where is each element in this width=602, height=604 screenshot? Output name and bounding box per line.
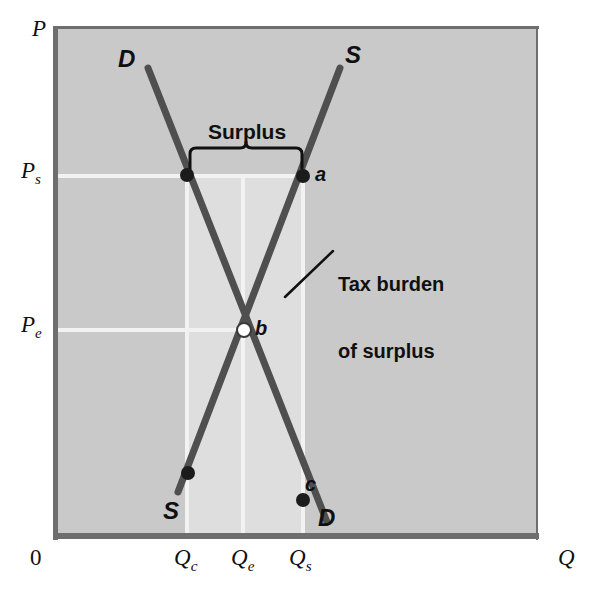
point-label-a: a: [315, 163, 326, 185]
demand-curve-label-bottom: D: [318, 505, 335, 532]
point-label-c: c: [305, 473, 316, 495]
tax-burden-annotation: Tax burden of surplus: [338, 228, 444, 407]
tick-ps-base: P: [21, 158, 35, 183]
tick-ps-sub: s: [35, 170, 41, 187]
tax-burden-line-2: of surplus: [338, 340, 444, 362]
surplus-annotation: Surplus: [189, 120, 305, 144]
tick-qe-sub: e: [248, 557, 255, 574]
tick-pe-sub: e: [35, 324, 42, 341]
tick-qs-sub: s: [306, 557, 312, 574]
plot-frame-bottom: [53, 533, 539, 539]
q-axis-title: Q: [558, 545, 575, 571]
tick-label-qs: Qs: [289, 545, 312, 574]
tick-qs-base: Q: [289, 545, 306, 570]
tick-label-qc: Qc: [174, 545, 197, 574]
demand-curve-label-top: D: [118, 46, 135, 73]
p-axis-title: P: [32, 16, 46, 42]
tick-label-qe: Qe: [231, 545, 254, 574]
point-a: [296, 169, 310, 183]
tick-label-pe: Pe: [21, 312, 42, 341]
plot-frame-left: [53, 26, 58, 540]
point-b-equilibrium: [236, 322, 252, 338]
supply-demand-surplus-figure: P Q 0 Ps Pe Qc Qe Qs D S S D a b c Surpl…: [0, 0, 602, 604]
point-supply-low: [181, 466, 195, 480]
point-demand-at-ps: [180, 168, 194, 182]
supply-curve-label-bottom: S: [163, 498, 179, 525]
plot-frame-right: [536, 26, 538, 540]
gridline-qc: [185, 176, 189, 536]
tick-qc-base: Q: [174, 545, 191, 570]
tax-burden-line-1: Tax burden: [338, 273, 444, 295]
tick-qe-base: Q: [231, 545, 248, 570]
tick-label-ps: Ps: [21, 158, 41, 187]
origin-label: 0: [30, 545, 42, 571]
supply-curve-label-top: S: [345, 42, 361, 69]
plot-frame-top: [53, 26, 539, 29]
tick-qc-sub: c: [191, 557, 198, 574]
tax-burden-shaded-region: [189, 176, 303, 536]
tick-pe-base: P: [21, 312, 35, 337]
point-label-b: b: [255, 317, 267, 339]
gridline-pe: [57, 328, 245, 332]
gridline-qe: [241, 176, 245, 536]
